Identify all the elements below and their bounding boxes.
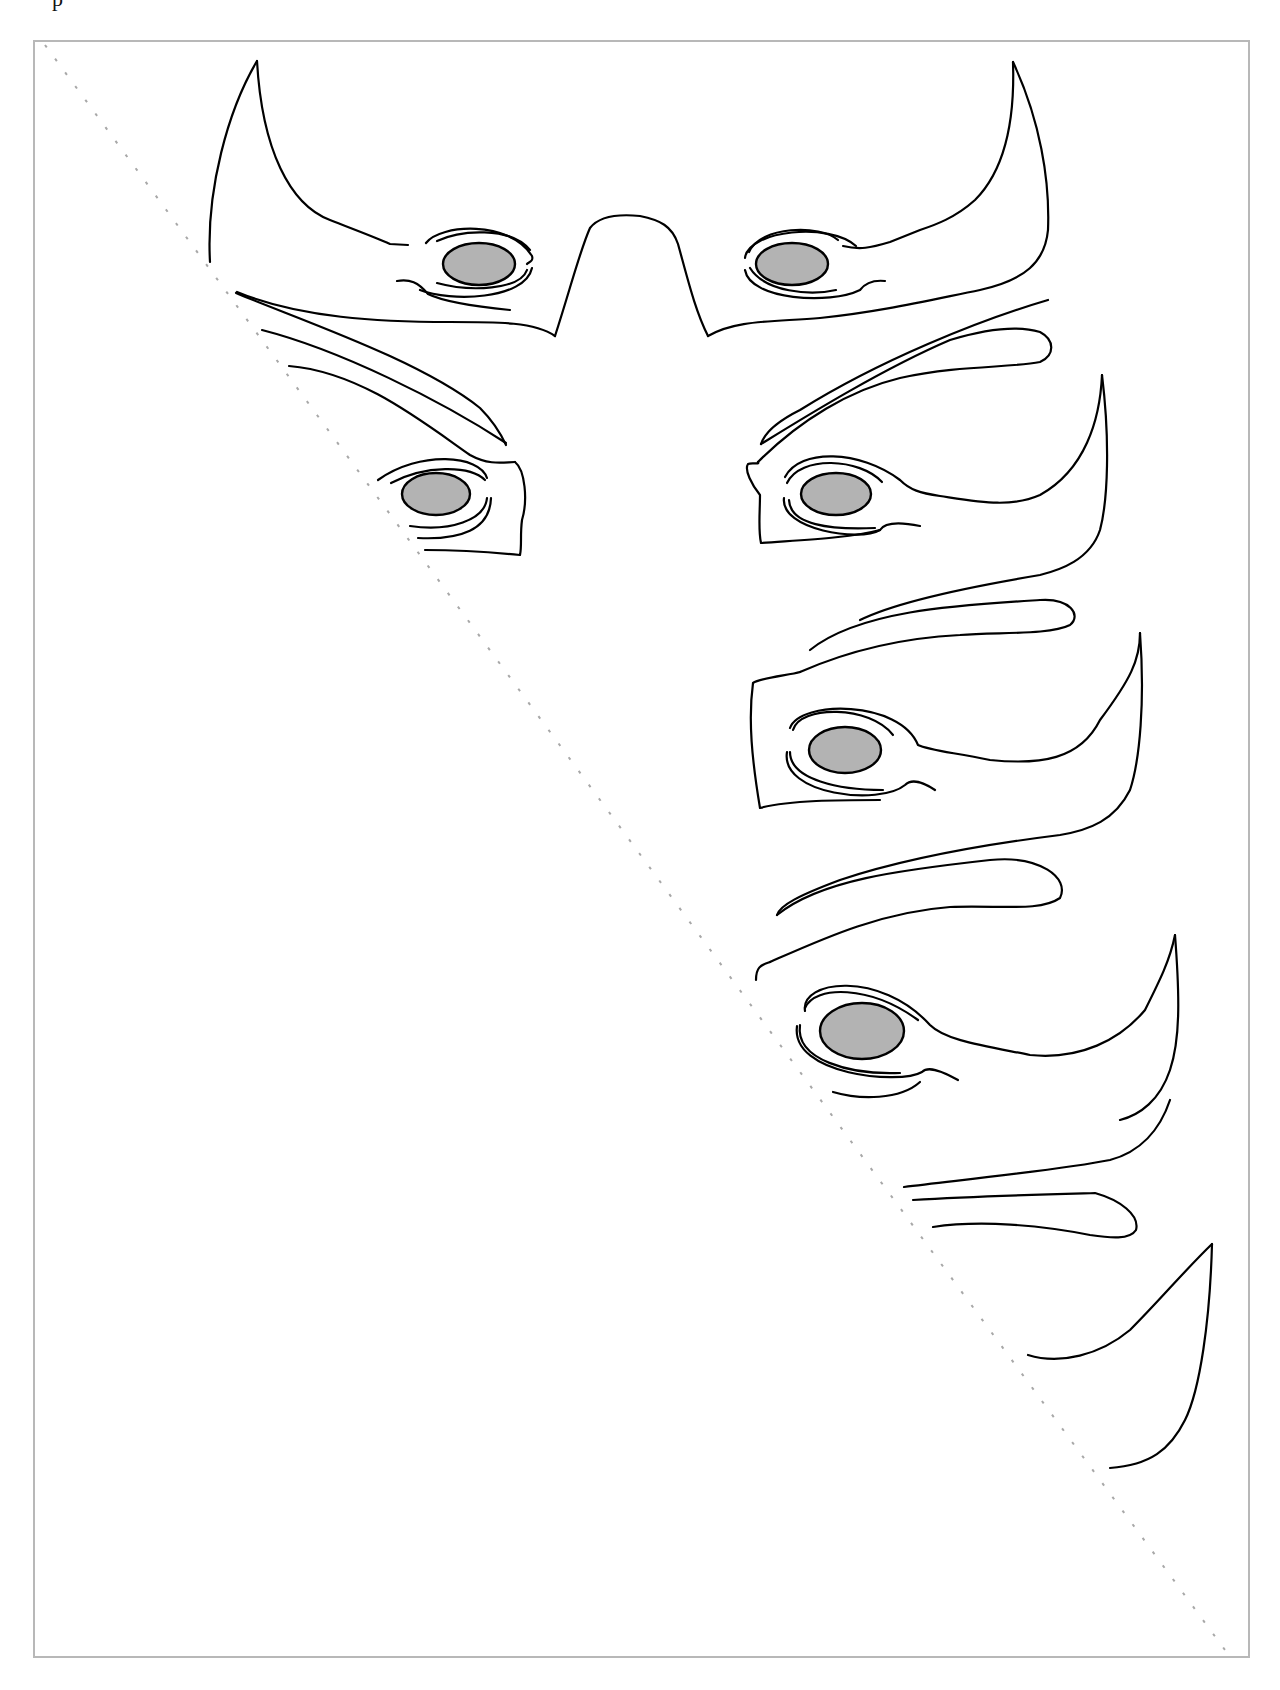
eye-hole-icon [801, 473, 871, 515]
mask-side-left-1 [236, 293, 525, 555]
mask-side-2 [751, 600, 1142, 915]
eye-hole-icon [820, 1003, 904, 1059]
mask-template-diagram [0, 0, 1280, 1690]
mask-front [210, 61, 1049, 336]
eye-hole-icon [809, 727, 881, 773]
eye-hole-icon [756, 243, 828, 285]
eye-hole-icon [402, 473, 470, 515]
eye-hole-icon [443, 243, 515, 285]
fold-line [45, 45, 1225, 1650]
mask-side-4 [904, 1100, 1212, 1468]
mask-side-3 [756, 859, 1178, 1120]
mask-side-right-1 [747, 300, 1107, 620]
